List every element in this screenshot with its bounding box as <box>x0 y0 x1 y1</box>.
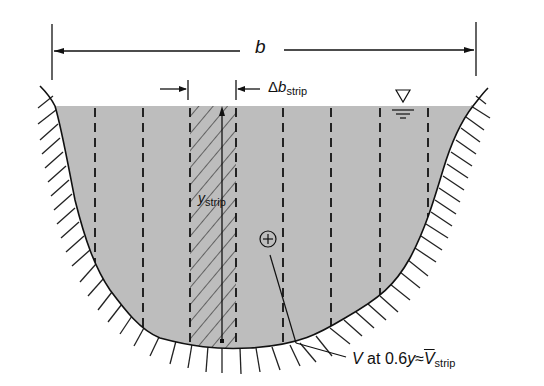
strip-depth-label: ystrip <box>198 190 226 208</box>
channel-cross-section-figure: b Δbstrip ystrip V at 0.6y≈Vstrip <box>0 0 544 386</box>
velocity-annotation-label: V at 0.6y≈Vstrip <box>352 350 455 369</box>
channel-diagram-svg <box>0 0 544 386</box>
water-cross-section <box>55 106 473 349</box>
channel-width-label: b <box>255 36 266 58</box>
highlighted-strip <box>190 106 236 356</box>
strip-width-label: Δbstrip <box>268 78 307 97</box>
strip-width-dimension <box>160 80 260 100</box>
